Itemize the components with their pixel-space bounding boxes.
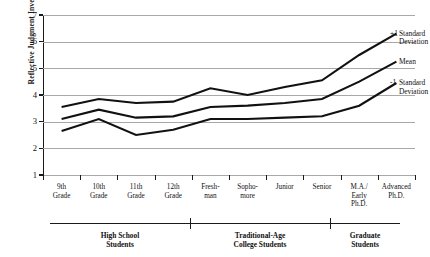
x-axis-label-6: Junior bbox=[266, 183, 303, 192]
x-tick-mark-10 bbox=[415, 175, 416, 180]
group-label-2: GraduateStudents bbox=[330, 231, 400, 249]
x-tick-mark-5 bbox=[229, 175, 230, 180]
group-label-1: Traditional-AgeCollege Students bbox=[190, 231, 330, 249]
legend-item-2: -1StandardDeviation bbox=[390, 79, 428, 97]
plot-area: 1234567 bbox=[43, 15, 415, 175]
legend-item-0: +1StandardDeviation bbox=[390, 30, 428, 48]
legend-item-1: Mean bbox=[390, 58, 416, 67]
x-axis-label-4: Fresh-man bbox=[192, 183, 229, 200]
x-axis-label-1: 10thGrade bbox=[80, 183, 117, 200]
group-label-0: High SchoolStudents bbox=[50, 231, 190, 249]
x-tick-mark-4 bbox=[192, 175, 193, 180]
y-tick-label-1: 1 bbox=[23, 171, 37, 180]
x-axis-label-3: 12thGrade bbox=[155, 183, 192, 200]
x-tick-mark-3 bbox=[155, 175, 156, 180]
series-lines bbox=[43, 15, 415, 175]
x-axis-label-5: Sopho-more bbox=[229, 183, 266, 200]
y-tick-label-3: 3 bbox=[23, 117, 37, 126]
legend-sign-2: -1 bbox=[390, 79, 399, 88]
x-axis-label-2: 11thGrade bbox=[117, 183, 154, 200]
reflective-judgment-chart: Reflective Judgment Inventory Score 1234… bbox=[0, 0, 430, 257]
x-tick-mark-1 bbox=[80, 175, 81, 180]
x-axis-label-0: 9thGrade bbox=[43, 183, 80, 200]
x-tick-mark-7 bbox=[303, 175, 304, 180]
x-tick-mark-6 bbox=[266, 175, 267, 180]
x-tick-mark-0 bbox=[43, 175, 44, 180]
x-tick-mark-2 bbox=[117, 175, 118, 180]
legend-text-1: Mean bbox=[399, 58, 416, 67]
x-axis-label-7: Senior bbox=[303, 183, 340, 192]
group-divider-2 bbox=[330, 218, 331, 229]
y-tick-label-5: 5 bbox=[23, 64, 37, 73]
legend-text-0: StandardDeviation bbox=[399, 30, 428, 48]
legend-text-2: StandardDeviation bbox=[399, 79, 428, 97]
x-axis-label-8: M.A./EarlyPh.D. bbox=[341, 183, 378, 209]
y-tick-label-2: 2 bbox=[23, 144, 37, 153]
x-tick-mark-8 bbox=[341, 175, 342, 180]
group-axis-line bbox=[50, 223, 400, 224]
group-divider-1 bbox=[190, 218, 191, 229]
y-tick-label-6: 6 bbox=[23, 37, 37, 46]
y-tick-label-7: 7 bbox=[23, 11, 37, 20]
y-tick-label-4: 4 bbox=[23, 91, 37, 100]
x-axis-label-9: AdvancedPh.D. bbox=[378, 183, 415, 200]
series-line-0 bbox=[62, 34, 397, 107]
x-tick-mark-9 bbox=[378, 175, 379, 180]
legend-sign-0: +1 bbox=[390, 30, 399, 39]
